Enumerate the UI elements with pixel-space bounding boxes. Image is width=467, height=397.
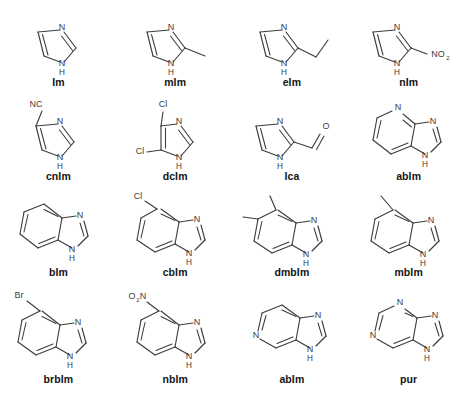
molecule-caption-nim: nIm [399, 77, 418, 88]
molecule-caption-ica: Ica [284, 171, 299, 182]
molecule-cell-mbim: N N H mbIm [350, 184, 467, 279]
atom-label-h: H [57, 162, 63, 170]
structure-brbim: Br N N H [8, 287, 108, 373]
molecule-caption-cnim: cnIm [46, 171, 71, 182]
atom-label-n1: N [277, 152, 284, 162]
atom-label-n1: N [307, 344, 314, 354]
imidazole-ring [36, 124, 74, 156]
atom-label-no2-subscript: 2 [446, 55, 450, 61]
molecule-cell-cnim: NC N N H cnIm [0, 92, 117, 184]
molecule-cell-eim: N N H eIm [234, 0, 351, 92]
atom-label-cl-top: Cl [159, 99, 168, 109]
imidazole-ring [38, 30, 76, 62]
atom-label-n1: N [176, 152, 183, 162]
atom-label-n3: N [194, 214, 201, 224]
imidazole-ring [296, 316, 326, 348]
molecule-cell-nim: N N H NO 2 nIm [350, 0, 467, 92]
atom-label-h: H [186, 258, 192, 266]
structure-nbim: O 2 N N N H [123, 287, 227, 373]
molecule-cell-ica: N N H O Ica [234, 92, 351, 184]
atom-label-n3: N [176, 116, 183, 126]
atom-label-h: H [281, 68, 287, 76]
structure-nim: N N H NO 2 [359, 10, 459, 76]
atom-label-h: H [303, 259, 309, 266]
molecule-caption-eim: eIm [283, 77, 301, 88]
structure-dmbim: N N H [240, 190, 344, 266]
atom-label-nc: NC [30, 99, 43, 109]
molecule-caption-nbim: nbIm [162, 374, 187, 385]
methyl-substituent [185, 48, 205, 56]
atom-label-n1: N [186, 248, 193, 258]
imidazole-ring [175, 220, 205, 252]
molecule-caption-im: Im [52, 77, 64, 88]
molecule-caption-mim: mIm [164, 77, 186, 88]
imidazole-ring [413, 316, 443, 348]
atom-label-n1: N [59, 58, 66, 68]
imidazole-ring [58, 216, 88, 248]
atom-label-n1: N [421, 150, 428, 160]
atom-label-h: H [176, 162, 182, 170]
structure-cbim: Cl N N H [125, 190, 225, 266]
pyridine-ring [373, 111, 415, 154]
molecule-cell-dmbim: N N H dmbIm [234, 184, 351, 279]
structure-eim: N N H [244, 10, 340, 76]
atom-label-h: H [69, 254, 75, 263]
atom-label-n1: N [303, 249, 310, 259]
atom-label-h: H [420, 259, 426, 266]
structure-grid: N N H Im N N H mIm [0, 0, 467, 397]
imidazole-ring [161, 124, 193, 156]
molecule-cell-abim-4: N N N H abIm [234, 279, 351, 397]
atom-label-h: H [59, 68, 65, 76]
imidazole-ring [147, 30, 185, 62]
atom-label-h: H [307, 354, 313, 363]
methyl-substituent-left [243, 217, 258, 219]
atom-label-o: O [129, 291, 136, 301]
atom-label-n1: N [419, 249, 426, 259]
atom-label-n3: N [277, 116, 284, 126]
molecule-caption-dmbim: dmbIm [274, 267, 309, 278]
molecule-caption-cbim: cbIm [163, 267, 188, 278]
atom-label-n3: N [311, 215, 318, 225]
methyl-substituent-top [270, 196, 276, 210]
structure-abim-4: N N N H [244, 287, 340, 373]
molecule-cell-brbim: Br N N H brbIm [0, 279, 117, 397]
molecule-caption-pur: pur [400, 374, 417, 385]
carbaldehyde-substituent [294, 134, 324, 150]
atom-label-n-nitro: N [140, 291, 147, 301]
structure-bim: N N H [10, 190, 106, 266]
structure-dcim: Cl Cl N N H [127, 98, 223, 170]
molecule-cell-dcim: Cl Cl N N H dcIm [117, 92, 234, 184]
imidazole-ring [373, 30, 411, 62]
cyano-substituent [36, 111, 42, 126]
molecule-caption-dcim: dcIm [163, 171, 188, 182]
atom-label-br: Br [15, 290, 24, 300]
benzene-ring [20, 204, 62, 248]
atom-label-h: H [186, 361, 192, 370]
atom-label-n1: N [186, 351, 193, 361]
atom-label-cl: Cl [134, 191, 143, 201]
molecule-caption-mbim: mbIm [394, 267, 422, 278]
atom-label-h: H [277, 162, 283, 170]
atom-label-n3: N [194, 317, 201, 327]
benzene-ring [18, 311, 60, 355]
molecule-caption-bim: bIm [49, 267, 68, 278]
atom-label-n1: N [67, 351, 74, 361]
atom-label-n9: N [423, 344, 430, 354]
benzene-ring [137, 209, 179, 252]
ethyl-substituent [298, 40, 328, 57]
atom-label-h: H [424, 354, 430, 363]
imidazole-ring [260, 30, 298, 62]
atom-label-n6: N [253, 330, 260, 340]
atom-label-n7: N [396, 297, 403, 307]
atom-label-h: H [394, 68, 400, 76]
atom-label-n1: N [57, 152, 64, 162]
atom-label-n3: N [429, 116, 436, 126]
imidazole-ring [411, 122, 441, 154]
chloro-substituent [145, 201, 157, 209]
atom-label-n1: N [281, 58, 288, 68]
structure-im: N N H [16, 10, 100, 76]
bromo-substituent [27, 301, 40, 311]
molecule-cell-nbim: O 2 N N N H [117, 279, 234, 397]
atom-label-n1: N [69, 244, 76, 254]
atom-label-n3: N [431, 310, 438, 320]
